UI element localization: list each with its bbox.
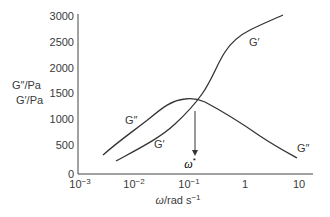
y-axis-label-gpp: G″/Pa <box>12 79 42 91</box>
y-tick-500: 500 <box>56 139 74 151</box>
x-tick-1e-3: 10−3 <box>69 177 91 190</box>
x-tick-1: 1 <box>242 178 248 190</box>
y-tick-2500: 2500 <box>50 36 74 48</box>
omega-star-label: ω* <box>184 156 196 171</box>
x-axis-label: ω/rad s−1 <box>155 193 201 207</box>
g-double-prime-label-right: G″ <box>297 142 310 154</box>
g-double-prime-curve <box>103 99 297 158</box>
x-tick-1e-2: 10−2 <box>123 177 145 190</box>
rheology-chart: 0 500 1000 1500 2000 2500 3000 G″/Pa G′/… <box>0 0 330 217</box>
y-tick-1000: 1000 <box>50 113 74 125</box>
y-tick-1500: 1500 <box>50 87 74 99</box>
g-double-prime-label-left: G″ <box>125 114 138 126</box>
x-tick-10: 10 <box>293 178 305 190</box>
y-tick-2000: 2000 <box>50 62 74 74</box>
y-axis-label-gp: G′/Pa <box>16 94 44 106</box>
x-tick-1e-1: 10−1 <box>178 177 200 190</box>
g-prime-label-upper: G′ <box>249 36 260 48</box>
g-prime-label-lower: G′ <box>154 138 165 150</box>
y-tick-3000: 3000 <box>50 10 74 22</box>
